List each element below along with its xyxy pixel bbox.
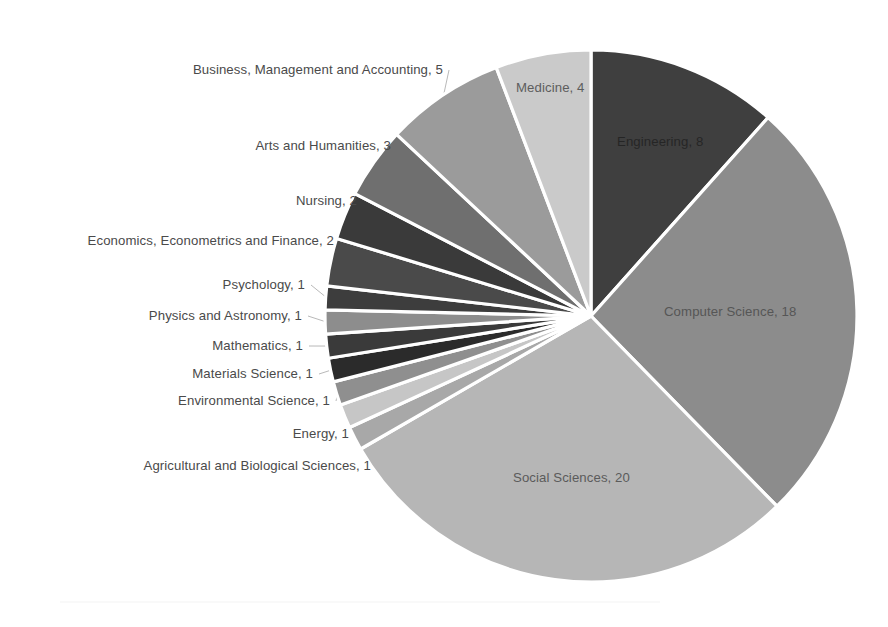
- pie-slice-label-callout: Physics and Astronomy, 1: [0, 308, 302, 323]
- pie-slice-label-callout: Arts and Humanities, 3: [0, 138, 391, 153]
- pie-slice-label: Social Sciences, 20: [513, 470, 630, 485]
- pie-slice-label: Engineering, 8: [617, 134, 703, 149]
- scan-artifact: [60, 601, 660, 603]
- pie-slice-label: Computer Science, 18: [664, 304, 796, 319]
- pie-slice-label-callout: Environmental Science, 1: [0, 393, 330, 408]
- pie-chart-figure: Engineering, 8Computer Science, 18Social…: [0, 0, 888, 627]
- pie-slice-label-callout: Agricultural and Biological Sciences, 1: [0, 458, 371, 473]
- pie-slice-label-callout: Nursing, 2: [0, 193, 357, 208]
- pie-slice-label: Medicine, 4: [516, 80, 585, 95]
- pie-slice-label-callout: Economics, Econometrics and Finance, 2: [0, 233, 334, 248]
- pie-slice-label-callout: Mathematics, 1: [0, 338, 303, 353]
- pie-slice-label-callout: Energy, 1: [0, 426, 349, 441]
- pie-slice-label-callout: Business, Management and Accounting, 5: [0, 62, 443, 77]
- pie-slice-label-callout: Psychology, 1: [0, 277, 305, 292]
- pie-slice-label-callout: Materials Science, 1: [0, 366, 313, 381]
